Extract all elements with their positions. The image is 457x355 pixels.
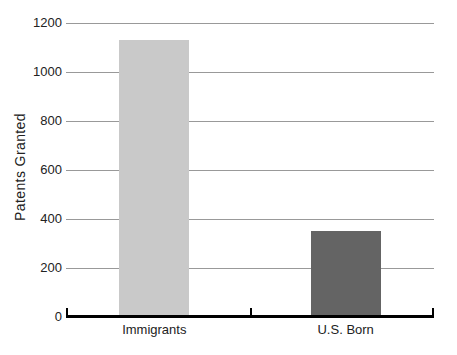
y-tick-label-400: 400 bbox=[18, 211, 62, 227]
x-axis-line bbox=[66, 315, 434, 318]
category-label-u-s-born: U.S. Born bbox=[286, 322, 406, 337]
y-tick-label-1200: 1200 bbox=[18, 15, 62, 31]
gridline-1200 bbox=[66, 23, 434, 24]
bar-u-s-born bbox=[311, 231, 381, 317]
y-tick-label-0: 0 bbox=[18, 309, 62, 325]
y-tick-label-800: 800 bbox=[18, 113, 62, 129]
y-tick-label-1000: 1000 bbox=[18, 64, 62, 80]
x-axis-tick bbox=[432, 308, 434, 315]
category-label-immigrants: Immigrants bbox=[94, 322, 214, 337]
patents-bar-chart: Patents Granted 020040060080010001200 Im… bbox=[0, 0, 457, 355]
x-axis-tick bbox=[66, 308, 68, 315]
bar-immigrants bbox=[119, 40, 189, 317]
x-axis-tick bbox=[250, 308, 252, 315]
y-tick-label-200: 200 bbox=[18, 260, 62, 276]
y-tick-label-600: 600 bbox=[18, 162, 62, 178]
